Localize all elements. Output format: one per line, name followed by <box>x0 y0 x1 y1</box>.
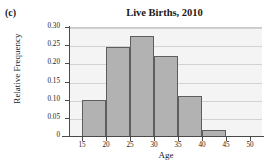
bars-layer <box>70 28 262 137</box>
x-tick-label: 15 <box>70 142 94 149</box>
x-tick-label: 50 <box>238 142 262 149</box>
y-tick-mark <box>65 100 70 101</box>
y-tick-label: 0.10 <box>26 96 60 103</box>
y-tick-mark <box>65 63 70 64</box>
y-tick-label: 0 <box>26 132 60 139</box>
bar <box>178 96 202 137</box>
x-tick-label: 45 <box>214 142 238 149</box>
y-tick-label: 0.05 <box>26 114 60 121</box>
figure-container: (c) Live Births, 2010 00.050.100.150.200… <box>0 0 269 164</box>
x-axis-line <box>62 136 264 137</box>
y-tick-mark <box>65 118 70 119</box>
y-tick-label: 0.20 <box>26 59 60 66</box>
bar <box>130 36 154 137</box>
y-tick-mark <box>65 136 70 137</box>
bar <box>154 56 178 137</box>
y-tick-label: 0.25 <box>26 41 60 48</box>
x-axis-title: Age <box>70 151 262 160</box>
y-tick-mark <box>65 45 70 46</box>
x-tick-label: 25 <box>118 142 142 149</box>
bar <box>106 47 130 137</box>
bar <box>82 100 106 137</box>
y-tick-label: 0.15 <box>26 78 60 85</box>
plot-area <box>70 27 262 137</box>
y-tick-label: 0.30 <box>26 23 60 30</box>
y-tick-mark <box>65 82 70 83</box>
x-tick-label: 35 <box>166 142 190 149</box>
y-axis-title: Relative Frequency <box>13 14 22 124</box>
y-tick-mark <box>65 27 70 28</box>
x-tick-label: 40 <box>190 142 214 149</box>
x-tick-label: 20 <box>94 142 118 149</box>
x-tick-label: 30 <box>142 142 166 149</box>
chart-title: Live Births, 2010 <box>60 7 269 19</box>
